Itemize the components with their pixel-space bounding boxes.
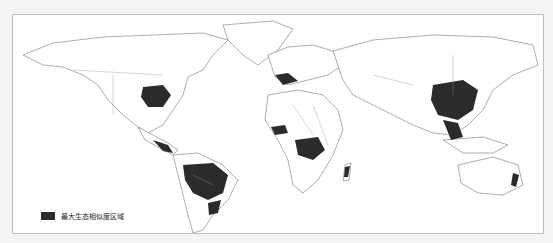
world-map: [13, 15, 544, 234]
legend: 最大生态相似度区域: [41, 211, 124, 221]
north-america: [23, 33, 228, 133]
legend-label: 最大生态相似度区域: [61, 211, 124, 221]
central-america: [138, 127, 178, 155]
map-frame: 最大生态相似度区域: [12, 14, 544, 234]
legend-swatch: [41, 212, 55, 220]
